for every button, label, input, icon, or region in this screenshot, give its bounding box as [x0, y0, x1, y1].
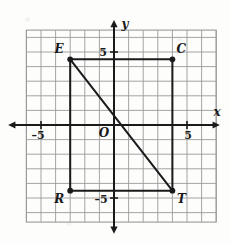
- x-tick-label-neg5: –5: [31, 129, 44, 142]
- x-axis-label: x: [213, 105, 222, 119]
- coordinate-plane-diagram: ECRTxyO–555–5: [0, 0, 230, 243]
- point-label-e: E: [54, 42, 65, 56]
- vertex-point-e: [67, 56, 73, 62]
- y-tick-label-neg5: –5: [94, 193, 107, 206]
- point-label-c: C: [177, 42, 187, 56]
- x-tick-label-5: 5: [184, 129, 192, 142]
- point-label-t: T: [177, 192, 187, 206]
- vertex-point-r: [67, 188, 73, 194]
- y-axis-label: y: [121, 17, 130, 31]
- origin-label: O: [99, 126, 110, 140]
- point-label-r: R: [53, 192, 64, 206]
- y-tick-label-5: 5: [99, 46, 107, 59]
- figure-canvas: ECRTxyO–555–5: [0, 0, 230, 243]
- vertex-point-t: [170, 188, 176, 194]
- vertex-point-c: [170, 56, 176, 62]
